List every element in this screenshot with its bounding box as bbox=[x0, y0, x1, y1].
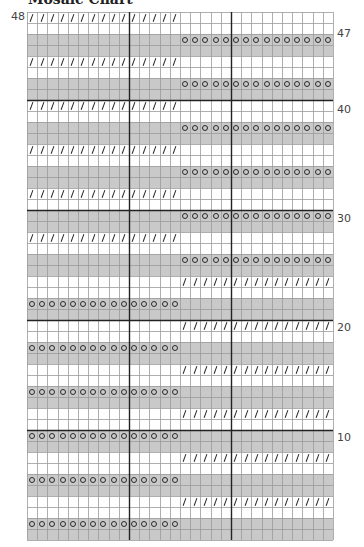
row-label-40: 40 bbox=[337, 104, 351, 116]
row-label-30: 30 bbox=[337, 213, 351, 225]
row-label-48: 48 bbox=[6, 11, 25, 23]
row-label-20: 20 bbox=[337, 322, 351, 334]
mosaic-chart-grid bbox=[27, 12, 333, 540]
chart-title: Mosaic Chart bbox=[28, 0, 133, 7]
row-label-10: 10 bbox=[337, 432, 351, 444]
row-label-47: 47 bbox=[337, 28, 351, 40]
grid-lines bbox=[27, 12, 334, 541]
